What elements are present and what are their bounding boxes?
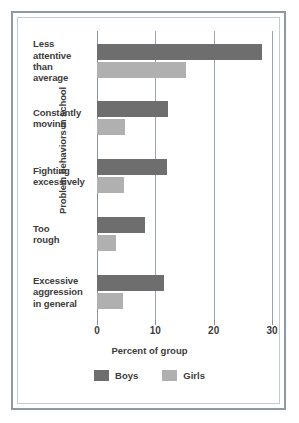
bar-boys [97,159,167,175]
bar-girls [97,293,123,309]
gridline-30 [272,31,273,320]
legend-swatch-girls [162,370,177,381]
bar-group [97,44,272,78]
category-label-line: Less [33,38,95,49]
category-label-line: Too [33,223,95,234]
category-label-line: Constantly [33,107,95,118]
category-label: Constantlymoving [33,107,95,130]
category-label-line: excessively [33,176,95,187]
bar-boys [97,44,262,60]
category-label-line: than [33,61,95,72]
bar-boys [97,101,168,117]
bar-group [97,159,272,193]
chart-legend: BoysGirls [0,370,299,381]
category-label-line: average [33,72,95,83]
x-tick-label-10: 10 [140,325,170,336]
category-label-line: moving [33,118,95,129]
bar-girls [97,177,124,193]
bar-group [97,217,272,251]
legend-item: Boys [94,370,138,381]
bar-boys [97,275,164,291]
bar-girls [97,235,116,251]
category-label: Toorough [33,223,95,246]
category-label-line: Fighting [33,165,95,176]
x-tick-label-20: 20 [199,325,229,336]
category-label-line: in general [33,298,95,309]
chart-figure: Problem behaviors in school Lessattentiv… [0,0,299,423]
category-label: Excessiveaggressionin general [33,275,95,309]
legend-item: Girls [162,370,205,381]
category-label-group: LessattentivethanaverageConstantlymoving… [33,31,95,320]
category-label-line: attentive [33,50,95,61]
bar-group [97,275,272,309]
category-label-line: rough [33,234,95,245]
category-label-line: Excessive [33,275,95,286]
bar-group [97,101,272,135]
category-label: Fightingexcessively [33,165,95,188]
legend-label: Boys [115,370,138,381]
bar-girls [97,119,125,135]
bar-girls [97,62,186,78]
x-tick-label-30: 30 [257,325,287,336]
category-label-line: aggression [33,286,95,297]
plot-area [97,31,272,320]
category-label: Lessattentivethanaverage [33,38,95,84]
legend-swatch-boys [94,370,109,381]
bar-boys [97,217,145,233]
x-tick-label-0: 0 [82,325,112,336]
legend-label: Girls [183,370,205,381]
x-axis-title: Percent of group [0,345,299,356]
